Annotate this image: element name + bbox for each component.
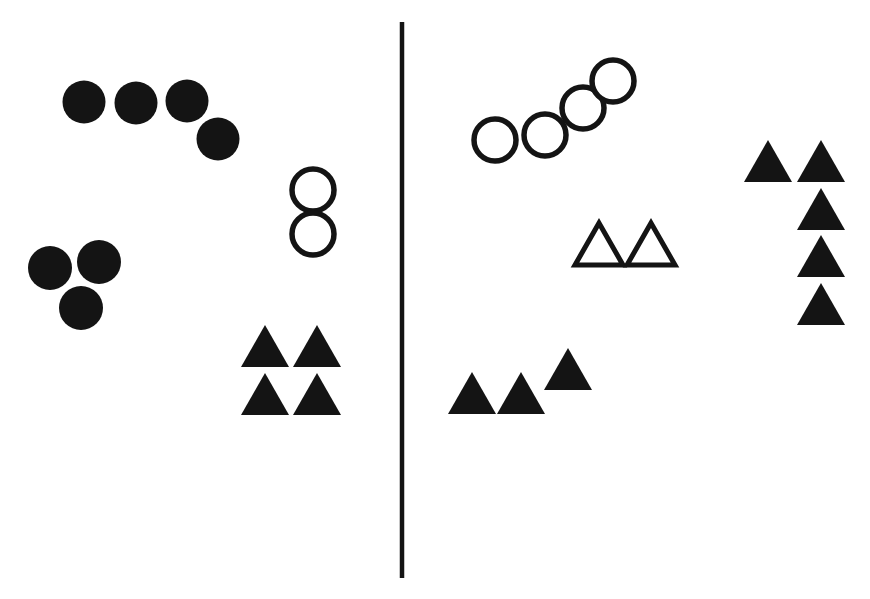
open-circle-marker [292, 213, 334, 255]
open-triangle-marker [627, 223, 675, 265]
filled-circle-marker [197, 118, 240, 161]
right-filled-triangle-row [448, 348, 592, 414]
right-panel [448, 60, 845, 414]
filled-triangle-marker [448, 372, 496, 414]
left-filled-circle-arc [63, 80, 240, 161]
open-circle-marker [592, 60, 634, 102]
filled-triangle-marker [797, 235, 845, 277]
right-filled-triangle-column [744, 140, 845, 325]
filled-circle-marker [28, 246, 72, 290]
left-panel [28, 80, 341, 416]
filled-triangle-marker [241, 325, 289, 367]
filled-triangle-marker [544, 348, 592, 390]
filled-triangle-marker [797, 140, 845, 182]
filled-triangle-marker [744, 140, 792, 182]
shape-figure [0, 0, 870, 599]
filled-circle-marker [63, 81, 106, 124]
filled-triangle-marker [797, 283, 845, 325]
left-filled-circle-triad [28, 240, 121, 330]
open-circle-marker [524, 114, 566, 156]
figure-canvas [0, 0, 870, 599]
right-open-triangle-pair [575, 223, 675, 265]
filled-triangle-marker [241, 373, 289, 415]
left-filled-triangle-grid [241, 325, 341, 415]
filled-circle-marker [59, 286, 103, 330]
open-triangle-marker [575, 223, 623, 265]
filled-circle-marker [115, 82, 158, 125]
filled-triangle-marker [497, 372, 545, 414]
filled-circle-marker [77, 240, 121, 284]
filled-circle-marker [166, 80, 209, 123]
filled-triangle-marker [293, 373, 341, 415]
open-circle-marker [474, 119, 516, 161]
filled-triangle-marker [293, 325, 341, 367]
right-open-circle-arc [474, 60, 634, 161]
left-open-circle-pair [292, 169, 334, 255]
filled-triangle-marker [797, 188, 845, 230]
open-circle-marker [292, 169, 334, 211]
